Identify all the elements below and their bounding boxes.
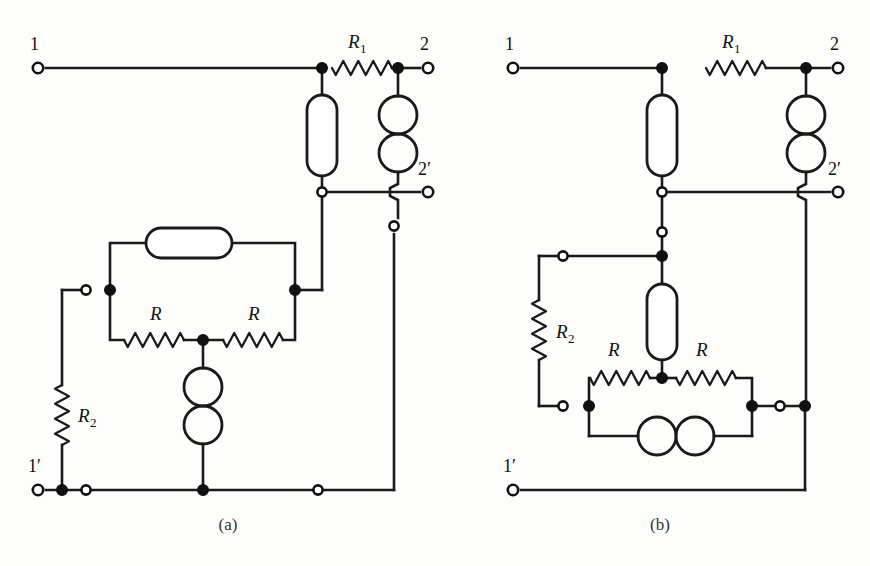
resistor-r1-body [706,61,766,75]
inductor-upper [647,95,677,176]
terminal-2[interactable]: 2 [830,34,843,73]
terminal-2p-port[interactable] [423,187,433,197]
capacitor-lower [184,368,222,444]
capacitor-lower-circle-2 [676,417,714,455]
terminal-1-label: 1 [30,34,39,54]
panel-b: R1RRR2122′1′(b) [503,31,843,534]
resistor-r1-label: R [347,31,360,52]
resistor-r-left-label: R [149,303,162,324]
node-b-r2-bot-open [558,401,567,410]
resistor-r-left-body [590,371,650,385]
node-b-stub-open [657,227,666,236]
node-a-2p-stub-open [389,221,398,230]
node-b-mid-open [657,187,666,196]
resistor-r2-body [55,385,69,445]
node-b-right-open [775,401,784,410]
node-b-r2-top-open [558,251,567,260]
figure-root: R1RRR2122′1′(a)R1RRR2122′1′(b) [0,0,870,566]
resistor-r-left-label: R [607,339,620,360]
node-a-top-right-junction [393,63,404,74]
terminal-1p[interactable]: 1′ [503,456,518,495]
resistor-r-right-body [223,333,283,347]
capacitor-upper-circle-1 [787,96,825,134]
node-a-bottom-left-open [81,485,90,494]
resistor-r1-label-sub: 1 [734,41,741,56]
resistor-r2-label-sub: 2 [568,331,575,346]
wire-b-cap-hop [798,172,806,406]
svg-content: R1RRR2122′1′(a)R1RRR2122′1′(b) [28,31,843,534]
node-a-bottom-left-dot [57,485,68,496]
resistor-r2-label: R [77,405,90,426]
resistor-r-right: R [223,303,283,347]
terminal-1p-port[interactable] [33,485,43,495]
resistor-r-left: R [124,303,184,347]
wire-a-bridge-lo-right [283,290,295,340]
panel-b-caption: (b) [650,515,670,534]
terminal-1p-port[interactable] [508,485,518,495]
capacitor-upper [787,96,825,172]
node-a-mid-left-open [317,187,326,196]
terminal-1[interactable]: 1 [505,34,518,73]
terminal-2[interactable]: 2 [420,34,433,73]
resistor-r2: R2 [532,300,575,360]
node-a-top-left-junction [317,63,328,74]
resistor-r-right-label: R [247,303,260,324]
inductor-upper [307,95,337,176]
resistor-r-right-label: R [695,339,708,360]
wire-a-cap-hop [390,172,398,218]
inductor-middle-body [146,228,232,258]
terminal-2-port[interactable] [423,63,433,73]
terminal-2-label: 2 [830,34,839,54]
node-b-right-rail-dot [747,401,758,412]
resistor-r-right-body [676,371,736,385]
node-b-center-dot [657,373,668,384]
resistor-r1-body [332,61,392,75]
node-a-bottom-center-dot [198,485,209,496]
inductor-middle [146,228,232,258]
capacitor-upper-circle-1 [379,96,417,134]
capacitor-lower-circle-2 [184,406,222,444]
terminal-2p-label: 2′ [828,159,841,179]
resistor-r2-body [532,300,546,360]
terminal-1p[interactable]: 1′ [28,456,43,495]
terminal-1[interactable]: 1 [30,34,43,73]
resistor-r-left-body [124,333,184,347]
resistor-r2: R2 [55,385,97,445]
terminal-1-port[interactable] [33,63,43,73]
resistor-r1: R1 [332,31,392,75]
node-a-bridge-right-dot [290,285,301,296]
node-b-center-top-dot [657,251,668,262]
terminal-1-label: 1 [505,34,514,54]
panel-a-caption: (a) [219,515,238,534]
node-b-top-right-junction [801,63,812,74]
node-a-bottom-right-open [313,485,322,494]
terminal-1p-label: 1′ [503,456,516,476]
node-b-left-rail-dot [584,401,595,412]
node-a-bridge-left-open [81,285,90,294]
terminal-1p-label: 1′ [28,456,41,476]
terminal-2p-port[interactable] [833,187,843,197]
inductor-upper-body [647,95,677,176]
capacitor-upper-circle-2 [379,134,417,172]
node-b-far-right-dot [800,401,811,412]
capacitor-upper-circle-2 [787,134,825,172]
terminal-2-label: 2 [420,34,429,54]
capacitor-upper [379,96,417,172]
resistor-r2-label-sub: 2 [90,415,97,430]
wire-a-bridge-lo-left [110,290,124,340]
circuit-diagram-svg: R1RRR2122′1′(a)R1RRR2122′1′(b) [0,0,870,566]
capacitor-lower [638,417,714,455]
panel-a: R1RRR2122′1′(a) [28,31,433,534]
capacitor-lower-circle-1 [184,368,222,406]
terminal-1-port[interactable] [508,63,518,73]
resistor-r1: R1 [706,31,766,75]
node-b-top-left-junction [657,63,668,74]
terminal-2p-label: 2′ [418,159,431,179]
inductor-lower-body [647,284,677,360]
wire-a-bridge-top-right [232,243,295,290]
wire-a-bridge-top-left [110,243,146,290]
inductor-upper-body [307,95,337,176]
resistor-r1-label: R [721,31,734,52]
terminal-2-port[interactable] [833,63,843,73]
resistor-r1-label-sub: 1 [360,41,367,56]
